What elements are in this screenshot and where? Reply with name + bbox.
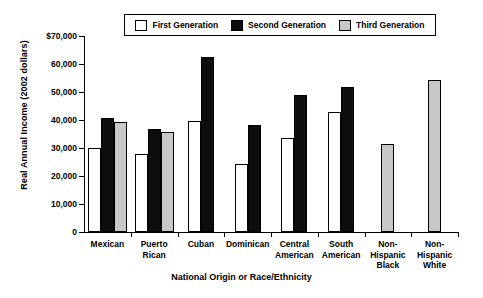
y-axis-tick — [79, 120, 84, 121]
x-axis-category-label: Cuban — [178, 239, 225, 250]
bar-first-generation — [135, 154, 148, 232]
x-axis-category-label: Mexican — [84, 239, 131, 250]
legend-swatch-third-generation — [339, 20, 351, 31]
bar-second-generation — [294, 95, 307, 232]
y-axis-title: Real Annual Income (2002 dollars) — [19, 15, 29, 215]
y-axis-tick-label: 10,000 — [51, 199, 77, 209]
bar-second-generation — [148, 129, 161, 232]
x-axis-tick — [411, 232, 412, 237]
x-axis-tick — [131, 232, 132, 237]
bar-first-generation — [328, 112, 341, 232]
x-axis-category-label: South American — [318, 239, 365, 260]
bar-second-generation — [341, 87, 354, 232]
plot-area: 010,00020,00030,00040,00050,00060,000$70… — [84, 36, 458, 232]
x-axis-title: National Origin or Race/Ethnicity — [0, 272, 483, 282]
bar-second-generation — [101, 118, 114, 232]
chart-legend: First Generation Second Generation Third… — [124, 14, 436, 36]
x-axis-category-label: Non- Hispanic White — [411, 239, 458, 271]
y-axis-tick-label: 30,000 — [51, 143, 77, 153]
x-axis-category-label: Dominican — [224, 239, 271, 250]
bar-first-generation — [188, 121, 201, 232]
bar-third-generation — [161, 132, 174, 232]
x-axis-tick — [365, 232, 366, 237]
bar-third-generation — [381, 144, 394, 232]
bar-second-generation — [248, 125, 261, 232]
x-axis-category-label: Non- Hispanic Black — [365, 239, 412, 271]
x-axis-tick — [178, 232, 179, 237]
legend-label-third-generation: Third Generation — [356, 20, 424, 30]
y-axis-tick-label: 0 — [72, 227, 77, 237]
x-axis-tick — [271, 232, 272, 237]
x-axis-category-label: Central American — [271, 239, 318, 260]
x-axis-tick — [318, 232, 319, 237]
bar-third-generation — [114, 122, 127, 232]
y-axis-tick-label: 20,000 — [51, 171, 77, 181]
y-axis-tick-label: $70,000 — [46, 31, 77, 41]
y-axis-line — [84, 36, 85, 232]
chart-figure: Real Annual Income (2002 dollars) First … — [0, 0, 483, 298]
legend-item-first-generation: First Generation — [135, 20, 218, 31]
legend-label-first-generation: First Generation — [152, 20, 218, 30]
y-axis-tick — [79, 64, 84, 65]
y-axis-tick-label: 60,000 — [51, 59, 77, 69]
legend-label-second-generation: Second Generation — [248, 20, 326, 30]
bar-first-generation — [235, 164, 248, 232]
bar-first-generation — [88, 148, 101, 232]
y-axis-tick — [79, 204, 84, 205]
y-axis-tick — [79, 92, 84, 93]
x-axis-category-label: Puerto Rican — [131, 239, 178, 260]
legend-item-third-generation: Third Generation — [339, 20, 424, 31]
bar-second-generation — [201, 57, 214, 232]
y-axis-tick-label: 50,000 — [51, 87, 77, 97]
y-axis-tick — [79, 232, 84, 233]
legend-item-second-generation: Second Generation — [231, 20, 326, 31]
y-axis-tick — [79, 148, 84, 149]
y-axis-tick-label: 40,000 — [51, 115, 77, 125]
y-axis-tick — [79, 36, 84, 37]
x-axis-tick — [224, 232, 225, 237]
legend-swatch-second-generation — [231, 20, 243, 31]
bar-first-generation — [281, 138, 294, 232]
legend-swatch-first-generation — [135, 20, 147, 31]
x-axis-tick — [458, 232, 459, 237]
bar-third-generation — [428, 80, 441, 232]
y-axis-tick — [79, 176, 84, 177]
